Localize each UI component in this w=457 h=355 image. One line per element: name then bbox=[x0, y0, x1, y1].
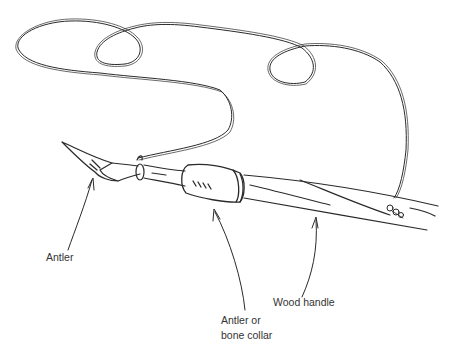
handle-pointer bbox=[302, 217, 318, 297]
rope-line bbox=[16, 19, 409, 198]
label-antler: Antler bbox=[46, 250, 73, 265]
foreshaft bbox=[144, 165, 185, 186]
wood-handle bbox=[240, 174, 438, 230]
harpoon-drawing bbox=[0, 0, 457, 355]
label-collar-line1: Antler or bbox=[221, 313, 261, 328]
harpoon-diagram: Antler Wood handle Antler or bone collar bbox=[0, 0, 457, 355]
antler-head bbox=[62, 142, 140, 181]
antler-pointer bbox=[68, 178, 94, 250]
collar-pointer bbox=[213, 209, 245, 310]
label-wood-handle: Wood handle bbox=[273, 295, 335, 310]
collar bbox=[182, 164, 244, 202]
label-collar-line2: bone collar bbox=[221, 328, 272, 343]
